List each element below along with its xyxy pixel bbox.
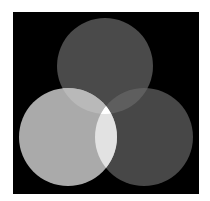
venn-diagram: [0, 0, 210, 201]
venn-svg: [0, 0, 210, 201]
